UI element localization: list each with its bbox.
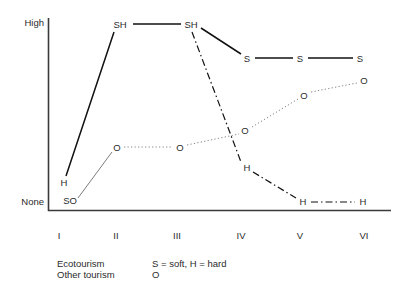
y-axis-high-label: High (24, 17, 44, 28)
x-tick-label-2: II (113, 230, 118, 241)
series-ecotourism-soft (66, 24, 353, 176)
x-tick-label-3: III (173, 230, 181, 241)
marker-s-stage-4: S (244, 53, 250, 64)
marker-o-stage-2: O (113, 142, 120, 153)
tourism-evolution-chart: High None (0, 0, 403, 300)
marker-so-stage-1: SO (63, 195, 77, 206)
marker-h-stage-5: H (300, 196, 307, 207)
chart-container: High None (0, 0, 403, 300)
marker-h-stage-6: H (360, 196, 367, 207)
other-segment-5-6 (311, 83, 357, 92)
eco-hard-segment-3-4 (192, 32, 241, 162)
marker-o-stage-5: O (300, 90, 307, 101)
marker-o-stage-4: O (241, 125, 248, 136)
axes-group (48, 18, 391, 211)
x-tick-label-6: VI (360, 230, 369, 241)
legend-row1-symbol: S = soft, H = hard (152, 258, 226, 269)
other-segment-3-4 (187, 134, 239, 145)
marker-h-stage-4: H (244, 162, 251, 173)
eco-rise-1-2 (66, 32, 114, 176)
legend-row1-label: Ecotourism (57, 258, 105, 269)
legend-row2-symbol: O (152, 269, 159, 280)
eco-hard-segment-4-5 (253, 172, 296, 198)
legend-row2-label: Other tourism (57, 269, 115, 280)
marker-h-stage-1: H (61, 177, 68, 188)
other-segment-1-2 (78, 152, 112, 198)
marker-s-stage-6: S (357, 53, 363, 64)
other-segment-4-5 (252, 99, 298, 127)
x-tick-label-1: I (58, 230, 61, 241)
marker-s-stage-5: S (297, 53, 303, 64)
marker-sh-stage-3: SH (184, 19, 197, 30)
y-axis-none-label: None (21, 196, 44, 207)
marker-o-stage-3: O (176, 142, 183, 153)
x-tick-label-5: V (297, 230, 304, 241)
marker-sh-stage-2: SH (113, 19, 126, 30)
eco-soft-segment-3-4 (201, 28, 241, 54)
x-tick-label-4: IV (237, 230, 247, 241)
marker-o-stage-6: O (360, 75, 367, 86)
chart-legend: Ecotourism S = soft, H = hard Other tour… (57, 258, 226, 280)
